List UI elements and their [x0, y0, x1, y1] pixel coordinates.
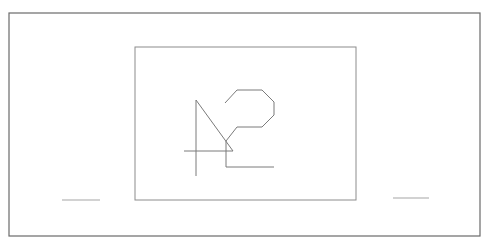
triangle-diagonal-line	[196, 100, 233, 151]
inner-frame	[135, 47, 356, 200]
outer-frame	[9, 13, 480, 236]
sketch-svg	[0, 0, 488, 245]
sketch-canvas	[0, 0, 488, 245]
curve-polyline	[225, 90, 274, 141]
